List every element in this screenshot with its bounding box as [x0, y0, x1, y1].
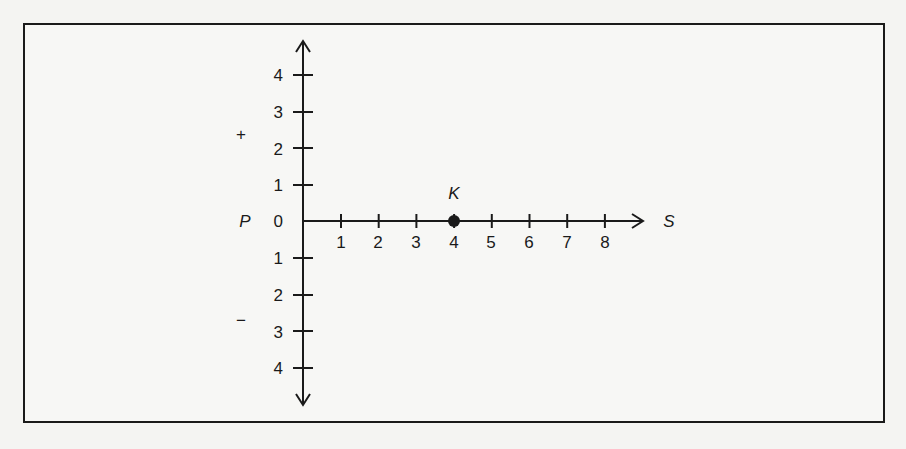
x-tick-label: 1 — [336, 233, 345, 252]
point-k-label: K — [448, 184, 460, 203]
vertical-axis-label: P — [239, 212, 251, 231]
x-tick-label: 7 — [562, 233, 571, 252]
y-tick-label: 1 — [274, 249, 283, 268]
x-tick-label: 5 — [486, 233, 495, 252]
x-tick-label: 3 — [411, 233, 420, 252]
x-tick-label: 4 — [449, 233, 458, 252]
positive-sign: + — [236, 125, 246, 144]
negative-sign: − — [236, 311, 246, 330]
point-k-marker — [448, 215, 460, 227]
y-tick-label: 1 — [274, 176, 283, 195]
y-tick-label: 4 — [274, 359, 283, 378]
y-tick-label: 4 — [274, 66, 283, 85]
y-tick-label: 3 — [274, 103, 283, 122]
horizontal-axis-label: S — [663, 212, 675, 231]
x-tick-label: 8 — [600, 233, 609, 252]
x-tick-label: 6 — [524, 233, 533, 252]
coordinate-diagram: 4 3 2 1 0 1 2 3 4 1 2 3 4 5 6 7 8 P S + … — [0, 0, 906, 449]
y-tick-label: 2 — [274, 286, 283, 305]
x-tick-label: 2 — [373, 233, 382, 252]
y-tick-label: 3 — [274, 323, 283, 342]
origin-label: 0 — [274, 212, 283, 231]
y-tick-label: 2 — [274, 140, 283, 159]
